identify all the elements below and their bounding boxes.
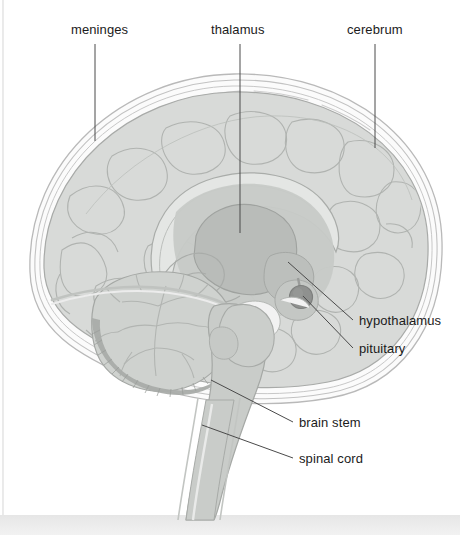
- label-cerebrum: cerebrum: [347, 22, 403, 37]
- label-hypothalamus: hypothalamus: [359, 313, 441, 328]
- label-thalamus: thalamus: [211, 22, 265, 37]
- label-brain-stem: brain stem: [299, 415, 361, 430]
- brain-diagram-figure: meningesthalamuscerebrumhypothalamuspitu…: [0, 0, 460, 535]
- base-band: [0, 515, 460, 535]
- label-spinal-cord: spinal cord: [299, 451, 363, 466]
- label-meninges: meninges: [71, 22, 128, 37]
- medulla-landmark: [209, 327, 238, 359]
- brain-illustration: [0, 0, 460, 535]
- label-pituitary: pituitary: [359, 341, 405, 356]
